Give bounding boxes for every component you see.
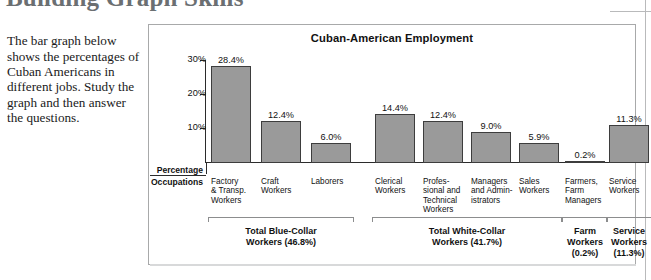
category-label: SalesWorkers bbox=[519, 177, 567, 196]
bar bbox=[471, 132, 511, 163]
group-bracket bbox=[562, 217, 608, 222]
bar-value-label: 9.0% bbox=[481, 121, 502, 131]
category-label: Profes-sional andTechnicalWorkers bbox=[423, 177, 471, 215]
group-brackets-layer: Total Blue-CollarWorkers (46.8%)Total Wh… bbox=[149, 217, 637, 265]
bar bbox=[609, 125, 649, 163]
y-tick: 20% bbox=[149, 94, 206, 95]
category-label: Factory& Transp.Workers bbox=[211, 177, 259, 205]
bar-group: 28.4% bbox=[211, 61, 251, 163]
category-label: ClericalWorkers bbox=[375, 177, 423, 196]
category-label-band: Percentage Occupations Factory& Transp.W… bbox=[149, 163, 637, 215]
bar bbox=[311, 143, 351, 163]
y-tick: 10% bbox=[149, 128, 206, 129]
category-label-line: Craft bbox=[261, 177, 309, 186]
y-axis-title: Percentage bbox=[150, 165, 206, 175]
category-label-line: Clerical bbox=[375, 177, 423, 186]
group-label-line: Workers bbox=[606, 237, 651, 248]
category-label-line: Managers bbox=[471, 177, 519, 186]
category-label-line: sional and bbox=[423, 186, 471, 195]
category-label-line: Managers bbox=[565, 196, 613, 205]
intro-paragraph: The bar graph below shows the percentage… bbox=[7, 33, 143, 125]
page-title: Building Graph Skills bbox=[6, 0, 244, 12]
chart-panel: Cuban-American Employment 30%20%10% 28.4… bbox=[148, 24, 636, 265]
group-label-line: Workers (41.7%) bbox=[372, 237, 562, 248]
category-label: ServiceWorkers bbox=[609, 177, 651, 196]
bar-group: 12.4% bbox=[423, 61, 463, 163]
axis-name-vrule bbox=[206, 163, 207, 174]
category-label-line: Technical bbox=[423, 196, 471, 205]
bar-group: 5.9% bbox=[519, 61, 559, 163]
group-label: ServiceWorkers(11.3%) bbox=[606, 226, 651, 259]
bars-layer: 28.4%12.4%6.0%14.4%12.4%9.0%5.9%0.2%11.3… bbox=[205, 61, 631, 163]
category-label-line: Service bbox=[609, 177, 651, 186]
bar-group: 14.4% bbox=[375, 61, 415, 163]
category-label-line: Workers bbox=[375, 186, 423, 195]
bar-value-label: 12.4% bbox=[430, 110, 456, 120]
bar-group: 0.2% bbox=[565, 61, 605, 163]
category-label-line: Factory bbox=[211, 177, 259, 186]
bar-group: 6.0% bbox=[311, 61, 351, 163]
group-label-line: Workers (46.8%) bbox=[208, 237, 354, 248]
category-label-line: Farmers, bbox=[565, 177, 613, 186]
category-label-line: and Admin- bbox=[471, 186, 519, 195]
bar bbox=[261, 121, 301, 163]
group-label-line: Farm bbox=[562, 226, 608, 237]
category-label: Farmers,FarmManagers bbox=[565, 177, 613, 205]
group-label-line: Total Blue-Collar bbox=[208, 226, 354, 237]
category-label-line: & Transp. bbox=[211, 186, 259, 195]
bar bbox=[211, 66, 251, 163]
group-label-line: (11.3%) bbox=[606, 248, 651, 259]
category-label-line: Workers bbox=[423, 205, 471, 214]
category-label-line: istrators bbox=[471, 196, 519, 205]
bar-group: 12.4% bbox=[261, 61, 301, 163]
category-label-line: Sales bbox=[519, 177, 567, 186]
category-label-line: Workers bbox=[609, 186, 651, 195]
y-tick-label: 10% bbox=[160, 122, 206, 132]
category-label-line: Workers bbox=[211, 196, 259, 205]
axis-name-separator bbox=[150, 175, 206, 176]
category-label-line: Workers bbox=[519, 186, 567, 195]
bar-group: 11.3% bbox=[609, 61, 649, 163]
category-label-line: Laborers bbox=[311, 177, 359, 186]
group-label: FarmWorkers(0.2%) bbox=[562, 226, 608, 259]
y-tick-label: 30% bbox=[160, 54, 206, 64]
bar bbox=[423, 121, 463, 163]
x-axis-title: Occupations bbox=[150, 177, 206, 187]
group-bracket bbox=[372, 217, 562, 222]
category-label: CraftWorkers bbox=[261, 177, 309, 196]
group-bracket bbox=[208, 217, 354, 222]
category-label-line: Farm bbox=[565, 186, 613, 195]
bar-value-label: 5.9% bbox=[529, 132, 550, 142]
bar bbox=[519, 143, 559, 163]
bar bbox=[375, 114, 415, 163]
group-label-line: Workers bbox=[562, 237, 608, 248]
category-label: Laborers bbox=[311, 177, 359, 186]
bar-value-label: 14.4% bbox=[382, 103, 408, 113]
y-tick: 30% bbox=[149, 60, 206, 61]
bar-value-label: 28.4% bbox=[218, 55, 244, 65]
group-label-line: Total White-Collar bbox=[372, 226, 562, 237]
category-label: Managersand Admin-istrators bbox=[471, 177, 519, 205]
group-label: Total Blue-CollarWorkers (46.8%) bbox=[208, 226, 354, 248]
bar-group: 9.0% bbox=[471, 61, 511, 163]
bar-value-label: 0.2% bbox=[575, 150, 596, 160]
group-bracket bbox=[606, 217, 651, 222]
bar-value-label: 11.3% bbox=[616, 114, 641, 124]
category-label-line: Workers bbox=[261, 186, 309, 195]
group-label-line: Service bbox=[606, 226, 651, 237]
bar-value-label: 6.0% bbox=[321, 132, 342, 142]
group-label-line: (0.2%) bbox=[562, 248, 608, 259]
bar-value-label: 12.4% bbox=[268, 110, 294, 120]
y-tick-label: 20% bbox=[160, 88, 206, 98]
group-label: Total White-CollarWorkers (41.7%) bbox=[372, 226, 562, 248]
category-label-line: Profes- bbox=[423, 177, 471, 186]
